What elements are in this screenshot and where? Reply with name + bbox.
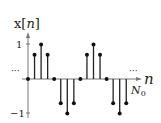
stem-dot xyxy=(118,112,122,116)
y-axis-arrow-icon xyxy=(26,32,30,38)
stem-dot xyxy=(65,112,69,116)
stem-dot xyxy=(98,53,102,57)
stem-dot xyxy=(46,53,50,57)
stem-dot xyxy=(111,101,115,105)
stem-dot xyxy=(78,77,82,81)
ellipsis-right: ··· xyxy=(129,66,138,76)
ellipsis-left: ··· xyxy=(11,66,20,76)
stem-dot xyxy=(33,53,37,57)
stem-plot: x[n] 1 −1 ··· ··· n N0 xyxy=(0,0,161,123)
stem-dot xyxy=(39,43,43,47)
stem-dot xyxy=(85,53,89,57)
stem-dot xyxy=(59,101,63,105)
y-tick-label-neg-1: −1 xyxy=(10,108,25,119)
y-axis-label: x[n] xyxy=(14,16,40,31)
stem-dot xyxy=(105,77,109,81)
stem-dot xyxy=(52,77,56,81)
stem-dot xyxy=(72,101,76,105)
stem-dot xyxy=(124,101,128,105)
stem-dot xyxy=(26,77,30,81)
stem-dot xyxy=(92,43,96,47)
y-tick-label-1: 1 xyxy=(16,39,22,50)
x-axis-label: n xyxy=(144,70,154,88)
x-axis-arrow-icon xyxy=(136,77,142,81)
